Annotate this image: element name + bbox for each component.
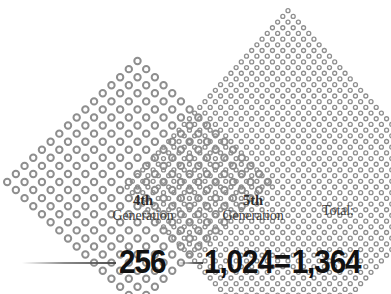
total-value: 1,364 (292, 243, 361, 280)
dot-grid-svg (205, 5, 371, 187)
gen5-ordinal-text: 5th (198, 193, 308, 208)
gen4-dot-diamond (68, 53, 207, 182)
gen5-generation-text: Generation (202, 208, 304, 223)
total-label-text: Total: (303, 203, 374, 218)
gen4-label: 4th Generation (88, 193, 198, 223)
figure-canvas: 4th Generation 5th Generation Total: 256… (0, 0, 391, 294)
dot-grid-svg (68, 53, 207, 182)
leader-rule-left (22, 262, 116, 264)
gen4-generation-text: Generation (92, 208, 194, 223)
leader-rule-middle (177, 262, 203, 264)
gen5-label: 5th Generation (198, 193, 308, 223)
gen5-count-value: 1,024 (204, 243, 273, 280)
gen4-count-value: 256 (119, 245, 165, 278)
total-equation: 1,024=1,364 (204, 245, 361, 278)
total-label: Total: (300, 203, 376, 218)
equals-sign: = (273, 243, 292, 280)
gen5-dot-diamond (205, 5, 371, 187)
gen4-ordinal-text: 4th (88, 193, 198, 208)
